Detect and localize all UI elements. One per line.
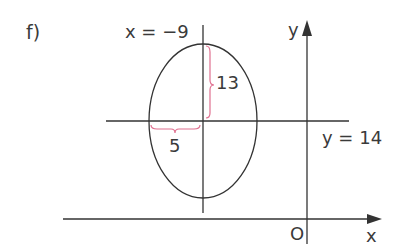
brace-horizontal xyxy=(151,125,200,133)
vertical-line-label: x = −9 xyxy=(125,23,189,41)
brace-vertical xyxy=(206,46,214,118)
semi-major-label: 13 xyxy=(216,74,239,92)
horizontal-line-label: y = 14 xyxy=(322,129,382,147)
x-axis-arrow-icon xyxy=(367,214,382,224)
semi-minor-label: 5 xyxy=(169,137,180,155)
problem-label: f) xyxy=(26,23,40,42)
y-axis-label: y xyxy=(288,21,299,39)
y-axis-arrow-icon xyxy=(302,20,312,36)
x-axis-label: x xyxy=(366,227,377,245)
diagram-canvas xyxy=(0,0,400,246)
origin-label: O xyxy=(290,225,304,243)
